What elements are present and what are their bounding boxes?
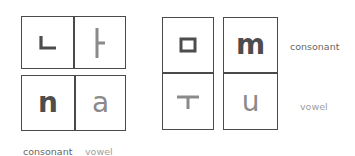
latin-consonant-cell: n	[22, 76, 74, 130]
latin-consonant-letter: m	[236, 31, 265, 59]
legend-vowel-label: vowel	[85, 146, 113, 156]
latin-vowel-cell: u	[224, 74, 277, 129]
latin-vowel-letter: a	[92, 89, 109, 117]
latin-consonant-cell: m	[224, 18, 277, 72]
hangul-u-glyph	[176, 94, 200, 110]
korean-syllable-box-vertical: ㅁ ㅜ	[162, 17, 214, 130]
legend-consonant-label: consonant	[290, 41, 339, 52]
legend-consonant-label: consonant	[23, 146, 72, 156]
latin-syllable-box-vertical: m u	[223, 17, 278, 130]
korean-vowel-cell	[163, 74, 213, 129]
hangul-a-glyph	[93, 27, 107, 59]
latin-syllable-box-horizontal: n a	[21, 75, 126, 131]
latin-vowel-letter: u	[242, 88, 260, 116]
legend-vowel-label: vowel	[300, 101, 328, 112]
hangul-nieun-glyph	[39, 35, 57, 51]
hangul-mieum-glyph	[179, 37, 197, 53]
korean-consonant-cell	[22, 17, 73, 68]
latin-consonant-letter: n	[38, 89, 58, 117]
korean-consonant-cell	[163, 18, 213, 72]
korean-syllable-box-horizontal: ㄴ ㅏ	[21, 16, 126, 69]
latin-vowel-cell: a	[76, 76, 125, 130]
korean-vowel-cell	[75, 17, 125, 68]
